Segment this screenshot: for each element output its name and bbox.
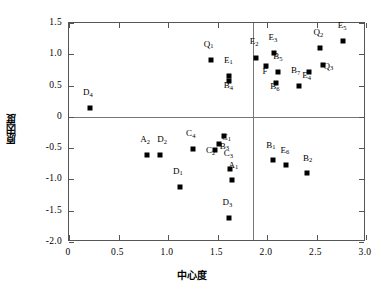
data-point xyxy=(318,46,323,51)
x-tick xyxy=(69,235,70,240)
x-tick xyxy=(119,235,120,240)
y-tick-label: -0.5 xyxy=(46,142,62,152)
data-point xyxy=(87,105,92,110)
data-point-label: Q2 xyxy=(314,28,324,37)
y-tick xyxy=(69,211,74,212)
data-point xyxy=(208,58,213,63)
y-axis-title: 原因度 xyxy=(4,114,19,144)
data-point-label: E1 xyxy=(224,56,233,65)
data-point-label: B1 xyxy=(266,141,275,150)
y-tick xyxy=(359,148,364,149)
data-point xyxy=(227,215,232,220)
y-tick xyxy=(69,86,74,87)
y-tick xyxy=(69,242,74,243)
x-tick-label: 2.0 xyxy=(260,247,273,257)
x-tick xyxy=(168,23,169,28)
x-tick-label: 3.0 xyxy=(359,247,372,257)
data-point-label: A2 xyxy=(140,135,150,144)
data-point-label: B4 xyxy=(224,81,233,90)
data-point-label: D2 xyxy=(157,135,167,144)
y-tick-label: 1.5 xyxy=(49,17,62,27)
data-point xyxy=(304,171,309,176)
data-point-label: E4 xyxy=(302,71,311,80)
plot-area xyxy=(68,22,365,241)
data-point-label: D4 xyxy=(83,88,93,97)
data-point-label: C2 xyxy=(206,146,215,155)
x-tick-label: 1.0 xyxy=(161,247,174,257)
data-point xyxy=(177,184,182,189)
data-point-label: Q3 xyxy=(323,62,333,71)
y-tick xyxy=(69,23,74,24)
y-tick xyxy=(359,23,364,24)
data-point-label: Q1 xyxy=(204,40,214,49)
y-tick-label: 0 xyxy=(57,111,62,121)
quadrant-divider-horizontal xyxy=(69,117,364,118)
y-tick xyxy=(69,54,74,55)
x-tick xyxy=(366,23,367,28)
data-point xyxy=(270,158,275,163)
data-point-label: C3 xyxy=(224,149,233,158)
data-point xyxy=(254,55,259,60)
data-point-label: B2 xyxy=(303,154,312,163)
data-point-label: E5 xyxy=(338,21,347,30)
y-tick xyxy=(359,54,364,55)
data-point-label: F xyxy=(262,67,267,76)
y-tick-label: 1.0 xyxy=(49,48,62,58)
y-tick-label: 0.5 xyxy=(49,80,62,90)
y-tick-label: -1.5 xyxy=(46,205,62,215)
data-point xyxy=(283,163,288,168)
y-tick xyxy=(359,242,364,243)
x-tick-label: 0.5 xyxy=(111,247,124,257)
x-tick xyxy=(218,235,219,240)
y-tick xyxy=(69,148,74,149)
data-point-label: D1 xyxy=(173,167,183,176)
y-tick-label: -2.0 xyxy=(46,236,62,246)
data-point-label: E2 xyxy=(250,37,259,46)
data-point xyxy=(190,147,195,152)
data-point xyxy=(158,152,163,157)
x-tick xyxy=(267,23,268,28)
y-tick xyxy=(359,86,364,87)
x-tick xyxy=(218,23,219,28)
data-point-label: E6 xyxy=(280,146,289,155)
data-point-label: B5 xyxy=(273,52,282,61)
data-point xyxy=(341,39,346,44)
y-tick xyxy=(359,179,364,180)
data-point-label: D3 xyxy=(223,198,233,207)
x-tick xyxy=(168,235,169,240)
data-point-label: C4 xyxy=(186,129,195,138)
data-point-label: C1 xyxy=(222,133,231,142)
data-point-label: B7 xyxy=(291,66,300,75)
x-tick xyxy=(267,235,268,240)
data-point-label: B6 xyxy=(270,82,279,91)
scatter-chart: 00.51.01.52.02.53.0 1.51.00.50-0.5-1.0-1… xyxy=(0,0,383,297)
x-tick xyxy=(317,235,318,240)
x-tick xyxy=(119,23,120,28)
data-point xyxy=(145,152,150,157)
y-tick xyxy=(69,117,74,118)
x-axis-title: 中心度 xyxy=(0,267,383,282)
data-point xyxy=(230,178,235,183)
data-point-label: A1 xyxy=(228,161,238,170)
y-tick xyxy=(69,179,74,180)
x-tick-label: 2.5 xyxy=(309,247,322,257)
y-tick xyxy=(359,117,364,118)
x-tick-label: 1.5 xyxy=(210,247,223,257)
x-tick xyxy=(366,235,367,240)
y-tick-label: -1.0 xyxy=(46,173,62,183)
data-point xyxy=(275,70,280,75)
y-tick xyxy=(359,211,364,212)
x-tick-label: 0 xyxy=(65,247,70,257)
data-point xyxy=(296,83,301,88)
data-point-label: E3 xyxy=(269,33,278,42)
